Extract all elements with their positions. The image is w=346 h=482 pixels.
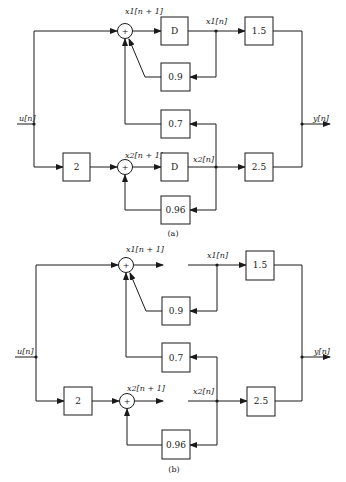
svg-text:2: 2 (74, 162, 80, 172)
svg-text:0.7: 0.7 (168, 119, 183, 129)
state2-label: x2[n] (193, 155, 215, 164)
diagram-a: u[n] 2 + x1[n + 1] D x1[n] (17, 7, 330, 238)
delay-block-1: D (161, 17, 188, 45)
state2-next-label: x2[n + 1] (125, 151, 164, 160)
input-label: u[n] (17, 347, 34, 356)
svg-text:D: D (171, 162, 178, 172)
input-to-gain2-wire (36, 357, 64, 401)
caption-b: (b) (168, 465, 179, 474)
fb22-to-sum2-wire (125, 175, 161, 210)
svg-text:0.9: 0.9 (168, 72, 183, 82)
gain-block-0-96: 0.96 (161, 196, 190, 224)
svg-text:+: + (123, 261, 130, 270)
gain-block-1-5: 1.5 (246, 251, 274, 280)
state2-to-fb22-wire (190, 167, 216, 210)
state1-next-label: x1[n + 1] (126, 245, 165, 254)
gain-block-2: 2 (63, 153, 90, 181)
state1-to-fb11-wire (190, 31, 216, 77)
fb11-to-sum1-wire (129, 39, 161, 77)
gain-block-2-5: 2.5 (247, 387, 275, 416)
svg-text:2: 2 (75, 396, 81, 406)
fb21-to-sum1-wire (126, 273, 162, 357)
summing-junction-2: + (118, 160, 133, 175)
svg-text:+: + (122, 27, 129, 36)
caption-a: (a) (167, 229, 178, 238)
fb21-to-sum1-wire (125, 39, 161, 124)
output-label: y[n] (312, 114, 330, 123)
gain-block-0-9: 0.9 (162, 297, 190, 325)
state2-next-label: x2[n + 1] (127, 384, 166, 393)
svg-text:2.5: 2.5 (252, 162, 267, 172)
state1-next-label: x1[n + 1] (125, 7, 164, 16)
diagram-b: u[n] 2 + x1[n + 1] x1[n] 1.5 y[n] (15, 245, 331, 474)
input-to-sum1-wire (34, 31, 117, 124)
svg-text:2.5: 2.5 (254, 396, 269, 406)
summing-junction-1: + (119, 258, 134, 273)
gain-block-2-5: 2.5 (245, 153, 273, 181)
svg-text:0.96: 0.96 (166, 440, 186, 450)
svg-text:D: D (171, 26, 178, 36)
input-to-gain2-wire (34, 124, 63, 167)
svg-text:1.5: 1.5 (252, 26, 267, 36)
state1-to-fb11-wire (190, 265, 217, 311)
svg-text:1.5: 1.5 (253, 260, 268, 270)
fb22-to-sum2-wire (127, 409, 162, 445)
state2-to-fb22-wire (190, 401, 217, 445)
svg-text:+: + (122, 163, 129, 172)
svg-text:0.96: 0.96 (165, 205, 185, 215)
output-combine-wire (273, 31, 302, 167)
svg-text:+: + (124, 397, 131, 406)
output-combine-wire (274, 265, 302, 401)
gain-block-2: 2 (64, 387, 92, 415)
gain-block-0-96: 0.96 (162, 430, 190, 459)
summing-junction-2: + (120, 394, 135, 409)
gain-block-0-9: 0.9 (161, 63, 190, 91)
fb11-to-sum1-wire (130, 273, 162, 311)
state1-label: x1[n] (206, 17, 228, 26)
gain-block-0-7: 0.7 (162, 343, 190, 372)
input-to-sum1-wire (36, 265, 118, 357)
gain-block-0-7: 0.7 (161, 110, 190, 138)
block-diagram-figure: u[n] 2 + x1[n + 1] D x1[n] (0, 0, 346, 482)
output-label: y[n] (313, 347, 331, 356)
svg-text:0.7: 0.7 (169, 353, 184, 363)
delay-block-2: D (161, 153, 188, 181)
gain-block-1-5: 1.5 (245, 17, 273, 45)
state2-label: x2[n] (193, 387, 215, 396)
svg-text:0.9: 0.9 (169, 306, 184, 316)
summing-junction-1: + (118, 24, 133, 39)
state1-label: x1[n] (207, 251, 229, 260)
